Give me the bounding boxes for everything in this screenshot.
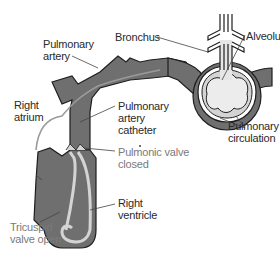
label-pulmonary-artery-catheter: Pulmonary artery catheter — [118, 100, 169, 136]
label-right-ventricle: Right ventricle — [118, 197, 157, 221]
label-bronchus: Bronchus — [115, 31, 160, 43]
label-pulmonary-artery: Pulmonary artery — [43, 38, 94, 62]
label-tricuspid-valve-open: Tricuspid valve open — [10, 221, 61, 245]
label-right-atrium: Right atrium — [14, 99, 43, 123]
label-alveolus: Alveolus — [246, 30, 280, 42]
label-pulmonary-circulation: Pulmonary circulation — [228, 120, 279, 144]
label-pulmonic-valve-closed: Pulmonic valve closed — [118, 146, 189, 170]
